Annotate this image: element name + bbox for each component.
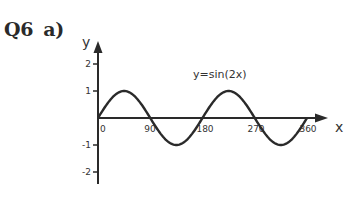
y-tick-label: -2 [82, 167, 91, 177]
y-ticks: 2 1 -1 -2 [82, 59, 98, 177]
curve-equation-label: y=sin(2x) [193, 68, 247, 81]
sine-graph: y x 2 1 -1 -2 0 90 180 270 360 y=sin(2x) [0, 0, 356, 202]
y-axis-arrow-icon [94, 41, 103, 53]
y-tick-label: -1 [82, 140, 91, 150]
x-tick-label: 0 [100, 124, 106, 134]
y-axis-label: y [82, 34, 90, 50]
x-ticks: 0 90 180 270 360 [100, 124, 317, 134]
x-axis-arrow-icon [315, 114, 328, 123]
y-tick-label: 2 [85, 59, 91, 69]
x-axis-label: x [335, 119, 343, 135]
y-tick-label: 1 [85, 86, 91, 96]
